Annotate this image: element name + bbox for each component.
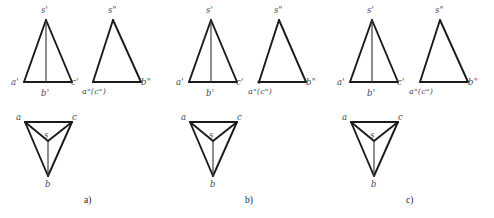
vertex-label-c-a: c' xyxy=(71,78,79,87)
side-view-right-edge xyxy=(279,20,306,82)
front-view-right-edge xyxy=(372,20,398,82)
vertex-label-c-b: c xyxy=(237,113,242,122)
side-view-right-edge xyxy=(113,20,141,82)
vertex-label-s-c: s' xyxy=(367,6,374,15)
side-view-right-edge xyxy=(440,20,468,82)
vertex-label-a-c: a' xyxy=(337,78,345,87)
vertex-label-b-b: b" xyxy=(306,78,316,87)
vertex-label-ac-c: a"(c") xyxy=(409,88,433,96)
vertex-label-b-a: b xyxy=(45,180,51,189)
front-view-left-edge xyxy=(24,20,46,82)
vertex-label-c-c: c' xyxy=(397,78,405,87)
vertex-label-c-c: c xyxy=(398,113,403,122)
vertex-label-b-c: b' xyxy=(367,89,375,98)
vertex-label-s-a: s xyxy=(44,131,49,140)
front-view-right-edge xyxy=(211,20,237,82)
vertex-label-a-c: a xyxy=(342,113,347,122)
panel-caption-c: c) xyxy=(406,196,413,206)
vertex-label-s-c: s xyxy=(370,131,375,140)
vertex-label-b-c: b xyxy=(371,180,377,189)
vertex-label-b-b: b' xyxy=(206,89,214,98)
vertex-label-a-b: a xyxy=(181,113,186,122)
front-view-left-edge xyxy=(189,20,211,82)
side-view-left-edge xyxy=(93,20,113,82)
figure-board: s'a'b'c's"a"(c")b"acbsa)s'a'b'c's"a"(c")… xyxy=(0,0,494,218)
top-view-edge-cb xyxy=(213,122,237,176)
projection-drawing-canvas xyxy=(0,0,494,218)
vertex-label-b-a: b' xyxy=(41,89,49,98)
top-view-edge-cb xyxy=(48,122,72,176)
vertex-label-s-a: s' xyxy=(41,6,48,15)
vertex-label-ac-b: a"(c") xyxy=(248,88,272,96)
vertex-label-a-a: a xyxy=(16,113,21,122)
vertex-label-a-b: a' xyxy=(176,78,184,87)
side-view-left-edge xyxy=(420,20,440,82)
top-view-edge-cb xyxy=(374,122,398,176)
vertex-label-ac-a: a"(c") xyxy=(82,88,106,96)
vertex-label-b-c: b" xyxy=(468,78,478,87)
vertex-label-s-b: s' xyxy=(206,6,213,15)
vertex-label-a-a: a' xyxy=(11,78,19,87)
vertex-label-s-a: s" xyxy=(108,6,117,15)
front-view-right-edge xyxy=(46,20,72,82)
vertex-label-s-b: s xyxy=(209,131,214,140)
vertex-label-s-c: s" xyxy=(435,6,444,15)
panel-caption-b: b) xyxy=(245,196,253,206)
side-view-left-edge xyxy=(259,20,279,82)
vertex-label-b-a: b" xyxy=(141,78,151,87)
vertex-label-c-b: c' xyxy=(236,78,244,87)
panel-caption-a: a) xyxy=(84,196,91,206)
vertex-label-b-b: b xyxy=(210,180,216,189)
vertex-label-c-a: c xyxy=(72,113,77,122)
front-view-left-edge xyxy=(350,20,372,82)
vertex-label-s-b: s" xyxy=(274,6,283,15)
